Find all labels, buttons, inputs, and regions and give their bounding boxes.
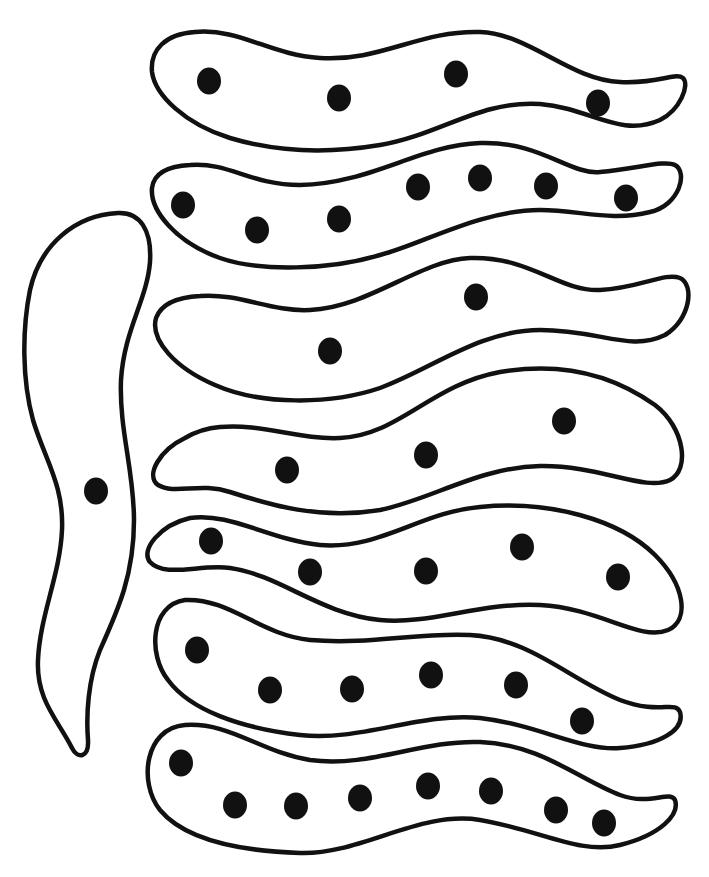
dot bbox=[327, 206, 351, 233]
dot bbox=[185, 637, 209, 664]
dot bbox=[84, 478, 108, 505]
dot bbox=[169, 750, 193, 777]
dot bbox=[340, 676, 364, 703]
dot bbox=[606, 564, 630, 591]
diagram-svg bbox=[0, 0, 709, 877]
dot bbox=[318, 338, 342, 365]
dot bbox=[348, 785, 372, 812]
dot bbox=[223, 792, 247, 819]
dot bbox=[614, 185, 638, 212]
dot bbox=[245, 217, 269, 244]
worm-2 bbox=[152, 143, 681, 268]
vertical-worm bbox=[24, 213, 150, 755]
dot bbox=[416, 773, 440, 800]
dot bbox=[570, 708, 594, 735]
dot bbox=[414, 558, 438, 585]
worm-diagram bbox=[0, 0, 709, 877]
worm-6 bbox=[155, 600, 680, 748]
dot bbox=[199, 528, 223, 555]
dot bbox=[171, 192, 195, 219]
dot bbox=[504, 672, 528, 699]
dot bbox=[464, 284, 488, 311]
dot bbox=[592, 810, 616, 837]
dot bbox=[197, 68, 221, 95]
dot bbox=[419, 662, 443, 689]
dot bbox=[510, 534, 534, 561]
dot bbox=[298, 559, 322, 586]
dot bbox=[327, 85, 351, 112]
worm-2-outline bbox=[152, 143, 681, 268]
dot bbox=[414, 442, 438, 469]
worm-1-outline bbox=[152, 32, 685, 151]
dot bbox=[284, 793, 308, 820]
dot bbox=[258, 677, 282, 704]
dot bbox=[444, 61, 468, 88]
dot bbox=[406, 174, 430, 201]
dot bbox=[468, 165, 492, 192]
dot bbox=[586, 90, 610, 117]
dot bbox=[479, 778, 503, 805]
worm-1 bbox=[152, 32, 685, 151]
dot bbox=[552, 408, 576, 435]
dot bbox=[534, 173, 558, 200]
dot bbox=[275, 457, 299, 484]
worm-6-outline bbox=[155, 600, 680, 748]
dot bbox=[544, 797, 568, 824]
